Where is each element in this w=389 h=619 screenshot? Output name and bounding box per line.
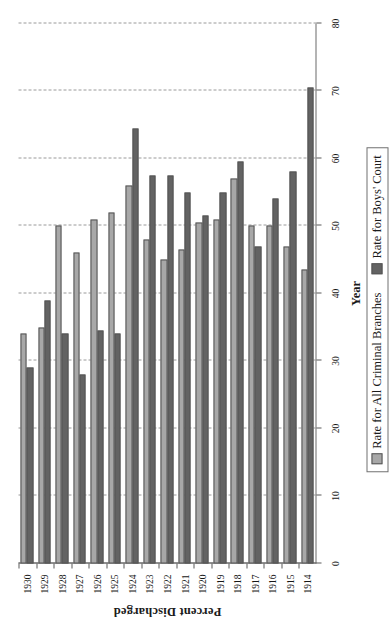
category-label-1916: 1916 xyxy=(267,574,277,593)
gridline-60 xyxy=(18,157,316,158)
category-axis-title: Year xyxy=(348,23,363,563)
category-tick-1927 xyxy=(71,563,72,568)
category-tick-1916 xyxy=(263,563,264,568)
category-tick-1928 xyxy=(53,563,54,568)
tick-label-70: 70 xyxy=(330,86,340,96)
gridline-80 xyxy=(18,22,316,23)
category-tick-1920 xyxy=(193,563,194,568)
bar-1914-series-0 xyxy=(301,269,307,563)
category-label-1920: 1920 xyxy=(197,574,207,593)
bar-1925-series-1 xyxy=(114,334,120,564)
category-tick-1929 xyxy=(36,563,37,568)
tick-80 xyxy=(316,22,321,23)
bar-1930-series-1 xyxy=(26,367,32,563)
bar-1923-series-0 xyxy=(143,239,149,563)
bar-1921-series-0 xyxy=(178,249,184,563)
bar-1922-series-1 xyxy=(167,175,173,563)
category-tick-1922 xyxy=(158,563,159,568)
category-label-1919: 1919 xyxy=(215,574,225,593)
category-label-1922: 1922 xyxy=(162,574,172,593)
bar-1919-series-0 xyxy=(213,219,219,563)
bar-1923-series-1 xyxy=(149,175,155,563)
bar-1922-series-0 xyxy=(160,259,166,563)
category-label-1923: 1923 xyxy=(144,574,154,593)
bar-1927-series-0 xyxy=(73,253,79,564)
tick-label-0: 0 xyxy=(330,561,340,566)
bar-1921-series-1 xyxy=(184,192,190,563)
tick-label-50: 50 xyxy=(330,221,340,231)
plot-area: 01020304050607080 1914191519161917191819… xyxy=(18,23,316,563)
category-label-1914: 1914 xyxy=(302,574,312,593)
chart-legend: Rate for All Criminal Branches Rate for … xyxy=(366,147,388,473)
bar-1916-series-1 xyxy=(272,199,278,564)
category-tick-1930 xyxy=(18,563,19,568)
category-label-1925: 1925 xyxy=(109,574,119,593)
tick-60 xyxy=(316,157,321,158)
category-label-1918: 1918 xyxy=(232,574,242,593)
legend-item-boys-court: Rate for Boys' Court xyxy=(369,155,384,274)
bar-1915-series-0 xyxy=(283,246,289,563)
category-label-1928: 1928 xyxy=(57,574,67,593)
bar-1917-series-0 xyxy=(248,226,254,564)
category-tick-1917 xyxy=(246,563,247,568)
bar-1919-series-1 xyxy=(219,192,225,563)
bar-chart-figure: 01020304050607080 1914191519161917191819… xyxy=(0,0,389,619)
tick-0 xyxy=(316,562,321,563)
category-label-1921: 1921 xyxy=(180,574,190,593)
bar-1926-series-0 xyxy=(90,219,96,563)
chart-rotation-wrapper: 01020304050607080 1914191519161917191819… xyxy=(0,0,389,619)
tick-label-30: 30 xyxy=(330,356,340,366)
bar-1914-series-1 xyxy=(307,87,313,563)
tick-50 xyxy=(316,225,321,226)
bar-1915-series-1 xyxy=(289,172,295,564)
tick-10 xyxy=(316,495,321,496)
bar-1925-series-0 xyxy=(108,212,114,563)
category-tick-1925 xyxy=(106,563,107,568)
category-tick-1921 xyxy=(176,563,177,568)
category-label-1930: 1930 xyxy=(22,574,32,593)
category-tick-1919 xyxy=(211,563,212,568)
category-tick-1923 xyxy=(141,563,142,568)
category-label-1926: 1926 xyxy=(92,574,102,593)
category-label-1924: 1924 xyxy=(127,574,137,593)
category-label-1917: 1917 xyxy=(250,574,260,593)
bar-1927-series-1 xyxy=(79,374,85,563)
legend-swatch-light-icon xyxy=(371,453,382,464)
tick-label-80: 80 xyxy=(330,18,340,28)
category-label-1927: 1927 xyxy=(74,574,84,593)
category-tick-1918 xyxy=(228,563,229,568)
bar-1929-series-0 xyxy=(38,327,44,563)
bar-1920-series-0 xyxy=(195,222,201,563)
category-tick-1914 xyxy=(298,563,299,568)
legend-item-all-criminal-branches: Rate for All Criminal Branches xyxy=(369,292,384,464)
bar-1920-series-1 xyxy=(202,215,208,563)
bar-1929-series-1 xyxy=(44,300,50,563)
bar-1924-series-1 xyxy=(132,128,138,563)
category-label-1929: 1929 xyxy=(39,574,49,593)
legend-label-boys-court: Rate for Boys' Court xyxy=(369,155,384,258)
bar-1918-series-0 xyxy=(230,178,236,563)
tick-30 xyxy=(316,360,321,361)
bar-1926-series-1 xyxy=(97,330,103,563)
category-label-1915: 1915 xyxy=(285,574,295,593)
bar-1916-series-0 xyxy=(266,226,272,564)
tick-label-40: 40 xyxy=(330,288,340,298)
category-tick-1924 xyxy=(123,563,124,568)
tick-20 xyxy=(316,427,321,428)
tick-70 xyxy=(316,90,321,91)
bar-1924-series-0 xyxy=(125,185,131,563)
bar-1928-series-0 xyxy=(55,226,61,564)
tick-label-20: 20 xyxy=(330,423,340,433)
gridline-70 xyxy=(18,90,316,91)
tick-label-60: 60 xyxy=(330,153,340,163)
category-tick-1926 xyxy=(88,563,89,568)
bar-1928-series-1 xyxy=(61,334,67,564)
bar-1930-series-0 xyxy=(20,334,26,564)
tick-label-10: 10 xyxy=(330,491,340,501)
bar-1918-series-1 xyxy=(237,161,243,563)
bar-1917-series-1 xyxy=(254,246,260,563)
category-tick-1915 xyxy=(281,563,282,568)
tick-40 xyxy=(316,292,321,293)
legend-swatch-dark-icon xyxy=(371,263,382,274)
value-axis-title: Percent Discharged xyxy=(113,604,221,619)
